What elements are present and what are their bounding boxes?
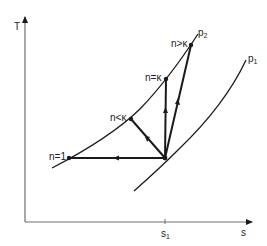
process-n1-label: n=1 xyxy=(49,152,66,162)
process-n-eq-k-line xyxy=(165,79,166,158)
process-n-gt-k-label: n>κ xyxy=(171,39,187,49)
process-n-eq-k-label: n=κ xyxy=(145,73,161,83)
state-1-point xyxy=(163,156,168,161)
p2-base: p xyxy=(198,27,204,38)
p1-base: p xyxy=(248,53,254,64)
state-n-eq-k-point xyxy=(164,77,168,81)
ts-diagram xyxy=(0,0,267,246)
state-n1-point xyxy=(67,156,71,160)
y-axis-label: T xyxy=(14,22,20,32)
s1-tick-label: s1 xyxy=(161,229,170,239)
s1-subscript: 1 xyxy=(166,233,170,240)
isobar-p2-label: p2 xyxy=(198,28,207,38)
p1-subscript: 1 xyxy=(254,58,258,65)
process-n-less-k-label: n<κ xyxy=(110,113,126,123)
p2-subscript: 2 xyxy=(204,32,208,39)
state-n-gt-k-point xyxy=(189,43,193,47)
state-n-less-k-point xyxy=(129,117,133,121)
isobar-p1-label: p1 xyxy=(248,54,257,64)
isobar-p2-curve xyxy=(52,34,198,168)
arrow-n-eq-k-icon xyxy=(163,107,168,113)
arrow-n1-icon xyxy=(113,156,119,161)
x-axis-label: s xyxy=(241,228,246,238)
